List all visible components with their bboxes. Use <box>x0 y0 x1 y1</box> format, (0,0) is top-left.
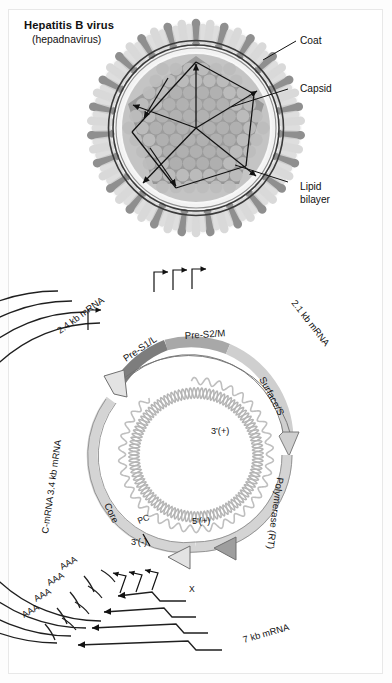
capsomere <box>223 181 236 194</box>
capsomere <box>237 110 250 123</box>
capsomere <box>163 74 176 87</box>
dna-plus-wave <box>119 377 274 532</box>
surface-spike <box>99 152 112 156</box>
capsomere <box>203 169 216 182</box>
label-5-prime-plus: 5'(+) <box>192 516 210 526</box>
capsomere <box>136 122 149 135</box>
capsomere <box>203 98 216 111</box>
capsomere <box>196 133 209 146</box>
surface-spike <box>103 88 115 93</box>
capsomere <box>203 74 216 87</box>
capsomere <box>190 169 203 182</box>
promoters-bottom <box>113 570 158 593</box>
capsomere <box>216 145 229 158</box>
capsomere <box>203 122 216 135</box>
dna-minus-strand <box>129 388 263 522</box>
orf-pre-s2-m <box>166 342 228 349</box>
capsomere <box>143 86 156 99</box>
surface-spike <box>96 140 109 142</box>
surface-spike <box>277 163 289 168</box>
surface-spike <box>189 27 190 40</box>
capsomere <box>230 122 243 135</box>
surface-spike <box>282 134 301 135</box>
figure-stage: Coat Capsid Lipid bilayer Hepatitis B vi… <box>0 0 392 683</box>
capsomere <box>163 122 176 135</box>
capsomere <box>196 181 209 194</box>
label-3-prime-plus: 3'(+) <box>211 426 229 436</box>
capsomere <box>190 145 203 158</box>
label-mrna-7: 7 kb mRNA <box>242 622 291 645</box>
capsomere <box>210 157 223 170</box>
figure-subtitle: (hepadnavirus) <box>32 34 101 45</box>
virion-diagram: Coat Capsid Lipid bilayer Hepatitis B vi… <box>24 19 332 234</box>
surface-spike <box>281 101 294 105</box>
callout-capsid: Capsid <box>300 83 332 94</box>
poly-a-tail-labels: AAA AAA AAA AAA <box>20 554 79 620</box>
capsomere <box>149 74 162 87</box>
capsomere <box>123 122 136 135</box>
capsomere <box>163 98 176 111</box>
capsomere <box>223 133 236 146</box>
capsid <box>120 52 272 204</box>
surface-spike <box>208 213 211 232</box>
surface-spike <box>283 140 296 142</box>
capsomere <box>210 181 223 194</box>
surface-spike <box>91 134 110 135</box>
surface-spike <box>189 216 190 229</box>
capsomere <box>196 63 209 76</box>
surface-spike <box>175 214 178 227</box>
promoters-top <box>154 269 206 292</box>
poly-a-tail-4: AAA <box>20 602 41 620</box>
label-pre-s2-m: Pre-S2/M <box>184 327 225 341</box>
capsomere <box>196 86 209 99</box>
surface-spike <box>214 214 217 227</box>
orf-core-arrowhead <box>104 370 127 397</box>
surface-spike <box>182 24 185 43</box>
capsomere <box>183 86 196 99</box>
surface-spike <box>282 121 301 122</box>
capsomere <box>170 63 183 76</box>
figure-title: Hepatitis B virus <box>24 19 114 31</box>
label-core: Core <box>102 501 121 525</box>
surface-spike <box>91 121 110 122</box>
capsomere <box>176 169 189 182</box>
capsomere <box>129 133 142 146</box>
capsomere <box>257 122 270 135</box>
capsomere <box>176 98 189 111</box>
capsomere <box>196 157 209 170</box>
dna-plus-strand <box>119 377 274 532</box>
surface-spike <box>214 29 217 42</box>
surface-spike <box>281 152 294 156</box>
label-x-gene: X <box>189 584 195 594</box>
surface-spike <box>162 211 166 223</box>
surface-spike <box>208 24 211 43</box>
surface-spike <box>225 211 229 223</box>
capsomere <box>170 157 183 170</box>
capsomere <box>143 133 156 146</box>
genome-map: AAA AAA AAA AAA <box>0 269 332 650</box>
surface-spike <box>99 101 112 105</box>
arc-mrna-2-1 <box>0 312 86 628</box>
capsomere <box>223 63 236 76</box>
callout-coat: Coat <box>300 35 322 46</box>
capsomere <box>223 86 236 99</box>
surface-spike <box>202 27 203 40</box>
label-mrna-2-1: 2.1 kb mRNA <box>289 298 331 348</box>
capsomere <box>237 133 250 146</box>
capsomere <box>149 122 162 135</box>
surface-spike <box>96 114 109 116</box>
capsomere <box>149 98 162 111</box>
capsomere <box>129 110 142 123</box>
poly-a-tail-3: AAA <box>32 586 53 604</box>
capsomere <box>250 133 263 146</box>
label-3-prime-minus: 3'(-) <box>131 537 147 547</box>
label-pre-core: PC <box>136 512 151 526</box>
surface-spike <box>175 29 178 42</box>
arc-mrna-c-3-4 <box>0 301 72 636</box>
surface-spike <box>202 216 203 229</box>
callout-lipid-bilayer-line1: Lipid <box>300 181 322 192</box>
surface-spike <box>162 33 166 45</box>
surface-spike <box>283 114 296 116</box>
capsomere <box>203 145 216 158</box>
capsomere <box>230 74 243 87</box>
